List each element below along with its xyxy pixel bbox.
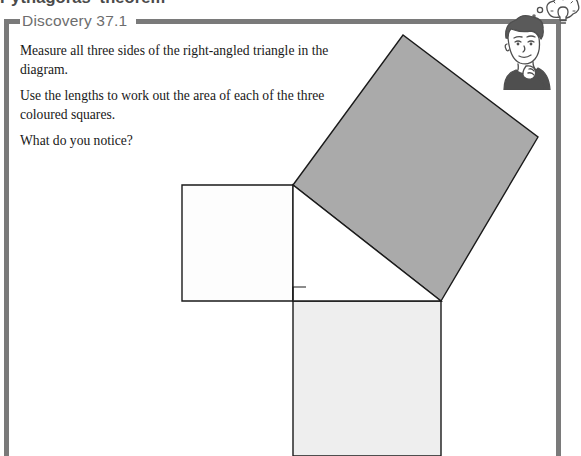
right-angled-triangle — [293, 185, 441, 301]
instruction-paragraph-1: Measure all three sides of the right-ang… — [20, 41, 350, 79]
frame-left-bar — [4, 19, 9, 456]
pupil-right — [530, 43, 533, 46]
lightbulb-icon — [558, 7, 568, 20]
discovery-label: Discovery 37.1 — [22, 12, 127, 30]
chapter-title-clip: Pythagoras' theorem — [0, 0, 300, 10]
right-angle-marker — [293, 287, 306, 300]
square-on-vertical-leg — [182, 185, 293, 301]
discovery-activity-page: Pythagoras' theorem Discovery 37.1 Measu… — [0, 0, 581, 456]
thought-dot-medium — [537, 7, 542, 12]
instruction-paragraph-2: Use the lengths to work out the area of … — [20, 86, 350, 124]
square-on-horizontal-leg — [293, 301, 441, 456]
instruction-paragraph-3: What do you notice? — [20, 131, 350, 150]
pupil-left — [517, 43, 520, 46]
thinking-student-illustration — [496, 0, 581, 90]
page-title: Pythagoras' theorem — [0, 0, 165, 7]
lightbulb-base — [561, 21, 567, 24]
